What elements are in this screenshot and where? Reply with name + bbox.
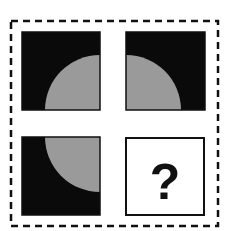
question-mark: ? [150, 154, 181, 210]
puzzle-figure: ? [0, 0, 229, 231]
cell-bottom-right: ? [126, 138, 204, 215]
